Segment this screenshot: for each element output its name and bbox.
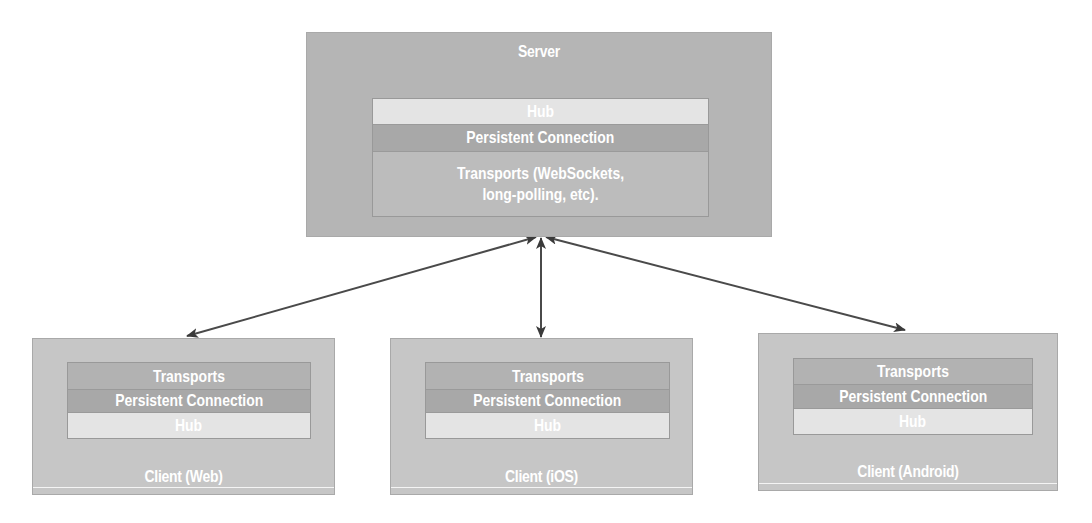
client-ios-persistent-connection-layer: Persistent Connection bbox=[426, 390, 669, 412]
client-android-persistent-connection-label: Persistent Connection bbox=[839, 386, 987, 407]
server-persistent-connection-layer: Persistent Connection bbox=[373, 125, 708, 153]
server-hub-label: Hub bbox=[527, 101, 554, 122]
client-ios-layer-stack: Transports Persistent Connection Hub bbox=[425, 362, 670, 439]
server-node: Server Hub Persistent Connection Transpo… bbox=[306, 32, 772, 237]
client-ios-persistent-connection-label: Persistent Connection bbox=[474, 390, 622, 411]
client-android-transports-label: Transports bbox=[877, 361, 949, 382]
client-android-baseline bbox=[759, 483, 1057, 484]
server-transports-label: Transports (WebSockets, long-polling, et… bbox=[444, 163, 637, 205]
client-web-node: Transports Persistent Connection Hub Cli… bbox=[32, 338, 335, 495]
client-web-baseline bbox=[33, 487, 334, 488]
client-android-title: Client (Android) bbox=[786, 462, 1030, 482]
arrow-server-client-android bbox=[546, 237, 905, 330]
client-ios-baseline bbox=[391, 487, 692, 488]
client-android-hub-label: Hub bbox=[899, 411, 926, 432]
client-web-persistent-connection-label: Persistent Connection bbox=[115, 390, 263, 411]
client-web-hub-label: Hub bbox=[175, 415, 202, 436]
client-android-transports-layer: Transports bbox=[794, 359, 1032, 385]
client-web-title: Client (Web) bbox=[60, 467, 307, 487]
client-ios-title: Client (iOS) bbox=[418, 467, 665, 487]
client-web-layer-stack: Transports Persistent Connection Hub bbox=[67, 362, 311, 439]
client-ios-hub-label: Hub bbox=[534, 415, 561, 436]
server-title: Server bbox=[349, 42, 729, 62]
client-android-persistent-connection-layer: Persistent Connection bbox=[794, 385, 1032, 408]
client-ios-hub-layer: Hub bbox=[426, 413, 669, 438]
server-persistent-connection-label: Persistent Connection bbox=[467, 127, 615, 148]
server-transports-layer: Transports (WebSockets, long-polling, et… bbox=[373, 152, 708, 216]
client-ios-node: Transports Persistent Connection Hub Cli… bbox=[390, 338, 693, 495]
client-android-node: Transports Persistent Connection Hub Cli… bbox=[758, 333, 1058, 491]
client-ios-transports-layer: Transports bbox=[426, 363, 669, 390]
server-layer-stack: Hub Persistent Connection Transports (We… bbox=[372, 98, 709, 217]
client-android-hub-layer: Hub bbox=[794, 409, 1032, 434]
arrow-server-client-web bbox=[187, 237, 536, 336]
client-web-transports-label: Transports bbox=[153, 366, 225, 387]
client-web-hub-layer: Hub bbox=[68, 413, 310, 438]
client-web-persistent-connection-layer: Persistent Connection bbox=[68, 390, 310, 412]
server-hub-layer: Hub bbox=[373, 99, 708, 125]
client-ios-transports-label: Transports bbox=[511, 366, 583, 387]
client-web-transports-layer: Transports bbox=[68, 363, 310, 390]
client-android-layer-stack: Transports Persistent Connection Hub bbox=[793, 358, 1033, 435]
